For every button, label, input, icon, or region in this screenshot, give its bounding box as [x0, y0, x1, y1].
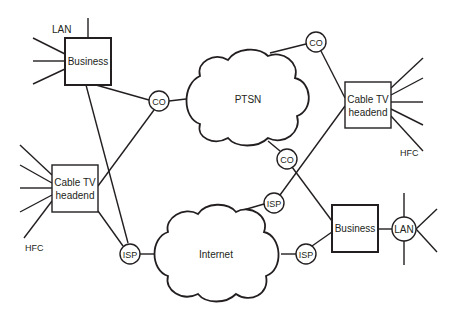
- edge-co-left-ptsn: [169, 99, 186, 101]
- co-middle-node: CO: [277, 149, 297, 169]
- lan-top-label: LAN: [52, 24, 71, 35]
- edge-cable-left-co-left: [98, 110, 154, 186]
- business-label: Business: [335, 223, 376, 234]
- isp-upper-node: ISP: [264, 193, 284, 213]
- cable-tv-label-line1: Cable TV: [347, 94, 389, 105]
- isp-left-node: ISP: [120, 244, 140, 264]
- edge-ptsn-co-top-right: [270, 44, 306, 53]
- edge-co-top-right-cable-right: [321, 51, 345, 98]
- business-top-node: Business: [65, 38, 111, 85]
- lan-spoke-left-1: [33, 38, 65, 54]
- isp-label: ISP: [267, 199, 282, 209]
- hfc-right-spoke-1: [391, 58, 423, 88]
- internet-cloud: Internet: [155, 205, 279, 302]
- edge-ptsn-co-middle: [268, 141, 280, 151]
- lan-bottom-spoke-downright: [416, 229, 437, 252]
- hfc-right-spoke-5: [391, 116, 423, 151]
- lan-spoke-left-3: [33, 69, 65, 84]
- hfc-left-spoke-4: [20, 195, 52, 212]
- hfc-right-spoke-2: [391, 78, 423, 95]
- hfc-left-spoke-1: [20, 145, 52, 175]
- edge-cable-left-isp-left: [98, 211, 123, 246]
- co-label: CO: [152, 97, 166, 107]
- business-bottom-node: Business: [332, 205, 378, 252]
- edge-business-top-co-left: [96, 85, 149, 100]
- internet-label: Internet: [199, 249, 233, 260]
- co-left-node: CO: [149, 91, 169, 111]
- co-label: CO: [309, 38, 323, 48]
- edge-isp-right-business-bottom: [312, 232, 332, 246]
- co-label: CO: [280, 155, 294, 165]
- ptsn-label: PTSN: [235, 94, 262, 105]
- edge-business-top-isp-left: [86, 85, 128, 243]
- lan-bottom-spoke-upright: [416, 209, 437, 229]
- edge-co-middle-business-bottom: [292, 167, 332, 221]
- network-diagram: PTSN Internet Business LAN CO CO Cable T…: [0, 0, 456, 315]
- co-top-right-node: CO: [306, 32, 326, 52]
- business-label: Business: [68, 56, 109, 67]
- lan-label: LAN: [394, 224, 413, 235]
- hfc-left-label: HFC: [25, 243, 44, 253]
- cable-tv-label-line1: Cable TV: [54, 177, 96, 188]
- isp-right-node: ISP: [296, 244, 316, 264]
- cable-tv-label-line2: headend: [56, 190, 95, 201]
- hfc-right-label: HFC: [400, 148, 419, 158]
- cable-tv-box: [345, 82, 391, 128]
- isp-label: ISP: [123, 250, 138, 260]
- hfc-left-spoke-5: [24, 201, 52, 238]
- cable-tv-headend-right-node: Cable TV headend: [345, 82, 391, 128]
- hfc-right-spoke-4: [391, 109, 423, 125]
- cable-tv-label-line2: headend: [349, 107, 388, 118]
- cable-tv-box: [52, 165, 98, 212]
- lan-bottom-node: LAN: [392, 217, 416, 241]
- cable-tv-headend-left-node: Cable TV headend: [52, 165, 98, 212]
- hfc-left-spoke-2: [20, 165, 52, 183]
- isp-label: ISP: [299, 250, 314, 260]
- ptsn-cloud: PTSN: [187, 50, 309, 146]
